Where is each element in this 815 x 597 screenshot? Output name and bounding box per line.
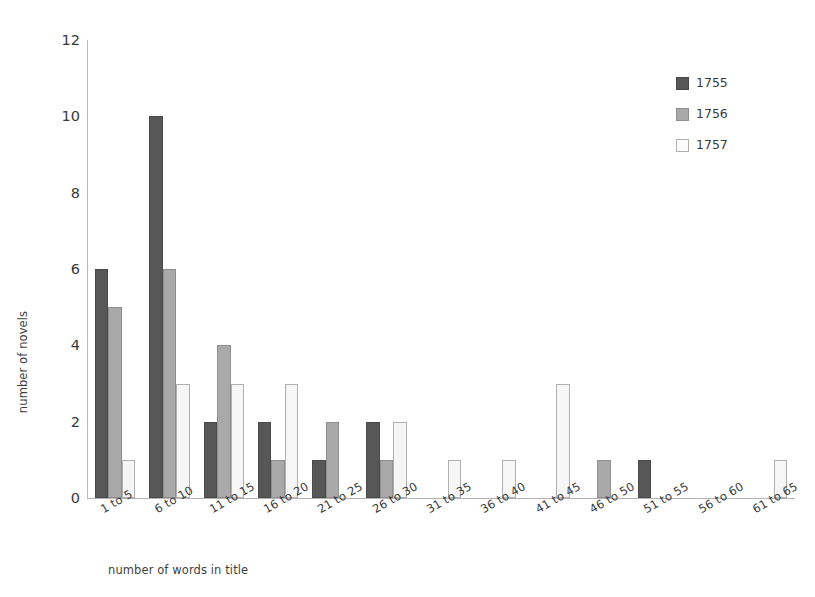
legend-label: 1757 [696, 139, 728, 152]
bar-group [204, 40, 245, 498]
bar-group [312, 40, 353, 498]
bar [231, 384, 245, 499]
bar-group [258, 40, 299, 498]
x-axis-title: number of words in title [108, 563, 248, 577]
bar [312, 460, 326, 498]
bar [204, 422, 218, 498]
bar [638, 460, 652, 498]
legend-swatch-icon [676, 77, 689, 90]
legend-item[interactable]: 1756 [676, 99, 796, 130]
bar [217, 345, 231, 498]
legend-item[interactable]: 1757 [676, 130, 796, 161]
legend-swatch-icon [676, 139, 689, 152]
y-axis-tick-label: 10 [44, 109, 80, 124]
y-axis-tick-label: 6 [44, 262, 80, 277]
bar-group [529, 40, 570, 498]
bar-group [638, 40, 679, 498]
legend-item[interactable]: 1755 [676, 68, 796, 99]
y-axis-tick-label: 4 [44, 338, 80, 353]
bar-group [475, 40, 516, 498]
bar-group [95, 40, 136, 498]
y-axis-title: number of novels [16, 292, 30, 432]
legend-label: 1755 [696, 77, 728, 90]
bar-group [366, 40, 407, 498]
bar-group [421, 40, 462, 498]
bar [556, 384, 570, 499]
chart-legend: 175517561757 [676, 68, 796, 161]
bar [149, 116, 163, 498]
bar-group [584, 40, 625, 498]
bar [258, 422, 272, 498]
bar [108, 307, 122, 498]
y-axis-tick-label: 12 [44, 33, 80, 48]
bar [285, 384, 299, 499]
legend-swatch-icon [676, 108, 689, 121]
bar [95, 269, 109, 498]
bar [176, 384, 190, 499]
bar-group [149, 40, 190, 498]
y-axis-tick-label: 0 [44, 491, 80, 506]
bar [366, 422, 380, 498]
y-axis-tick-label: 8 [44, 186, 80, 201]
legend-label: 1756 [696, 108, 728, 121]
bar [326, 422, 340, 498]
y-axis-tick-label: 2 [44, 415, 80, 430]
bar [163, 269, 177, 498]
bar-chart: number of novels 024681012 1 to 56 to 10… [0, 0, 815, 597]
